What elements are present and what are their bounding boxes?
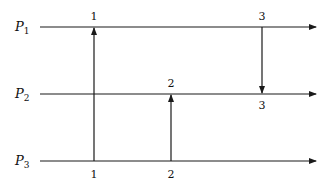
svg-text:P3: P3 <box>14 153 30 170</box>
event-label-3-send: 3 <box>259 10 266 23</box>
process-diagram: P1 P2 P3 1 1 2 2 3 3 <box>0 0 329 185</box>
process-label-p1: P1 <box>14 19 29 36</box>
event-label-2-send: 2 <box>168 168 175 181</box>
event-label-2-receive: 2 <box>168 77 175 90</box>
event-label-3-receive: 3 <box>259 99 266 112</box>
event-label-1-receive: 1 <box>91 10 98 23</box>
event-label-1-send: 1 <box>91 168 98 181</box>
process-label-p2: P2 <box>14 86 29 103</box>
svg-text:P2: P2 <box>14 86 29 103</box>
svg-text:P1: P1 <box>14 19 29 36</box>
process-label-p3: P3 <box>14 153 30 170</box>
